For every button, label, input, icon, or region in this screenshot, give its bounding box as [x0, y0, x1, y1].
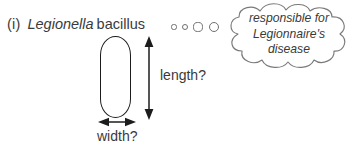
caption-genus-name: Legionella	[20, 16, 96, 32]
length-arrow-glyph	[140, 36, 158, 120]
thought-trail-dot-4	[209, 22, 220, 33]
thought-trail-dot-3	[193, 22, 202, 31]
caption-morphology: bacillus	[97, 16, 145, 32]
figure-caption: (i)Legionellabacillus	[7, 16, 145, 33]
length-dimension-arrow	[140, 36, 158, 120]
thought-bubble-text: responsible for Legionnaire's disease	[236, 11, 342, 58]
figure-canvas: (i)Legionellabacillus responsible for Le…	[0, 0, 354, 147]
caption-item-marker: (i)	[7, 16, 20, 32]
thought-bubble-line-1: responsible for	[236, 11, 342, 27]
thought-trail-dot-1	[171, 24, 176, 29]
width-label: width?	[97, 128, 137, 144]
thought-bubble-line-3: disease	[236, 42, 342, 58]
bacillus-cell-outline	[100, 36, 131, 118]
thought-bubble-line-2: Legionnaire's	[236, 27, 342, 43]
thought-trail-dot-2	[182, 24, 189, 31]
length-label: length?	[160, 67, 206, 83]
